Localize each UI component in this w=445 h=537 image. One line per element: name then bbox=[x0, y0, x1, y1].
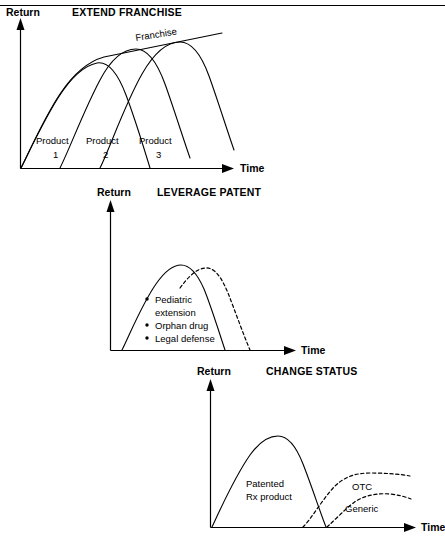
bullet-item-1-line1: Pediatric bbox=[155, 294, 192, 305]
product-2-number: 2 bbox=[103, 149, 108, 160]
otc-label: OTC bbox=[352, 481, 372, 492]
product-1-label: Product bbox=[36, 135, 69, 146]
panel1-x-axis-label: Time bbox=[240, 162, 264, 174]
panel1-y-axis-label: Return bbox=[6, 6, 40, 18]
bullet-dot-icon bbox=[145, 336, 148, 339]
panel-extend-franchise: Return EXTEND FRANCHISE Time Franchise P… bbox=[6, 6, 264, 174]
panel-change-status: Return CHANGE STATUS Time Patented Rx pr… bbox=[197, 365, 445, 533]
panel3-y-axis-label: Return bbox=[197, 365, 231, 377]
y-axis-arrowhead bbox=[107, 200, 115, 212]
y-axis-arrowhead bbox=[17, 18, 25, 30]
panel2-x-axis-label: Time bbox=[301, 344, 325, 356]
panel1-title: EXTEND FRANCHISE bbox=[72, 6, 182, 18]
panel2-title: LEVERAGE PATENT bbox=[157, 186, 262, 198]
product-1-number: 1 bbox=[53, 149, 58, 160]
product-3-label: Product bbox=[139, 135, 172, 146]
panel3-x-axis-label: Time bbox=[421, 521, 445, 533]
product-1-curve bbox=[21, 63, 150, 168]
x-axis-arrowhead bbox=[284, 346, 296, 355]
franchise-series-label: Franchise bbox=[135, 26, 178, 43]
product-2-label: Product bbox=[86, 135, 119, 146]
diagram-canvas: Return EXTEND FRANCHISE Time Franchise P… bbox=[0, 0, 445, 537]
bullet-item-1-line2: extension bbox=[155, 307, 196, 318]
x-axis-arrowhead bbox=[404, 523, 416, 532]
product-3-number: 3 bbox=[156, 149, 161, 160]
panel3-title: CHANGE STATUS bbox=[266, 365, 357, 377]
panel-leverage-patent: Return LEVERAGE PATENT Time Pediatric ex… bbox=[97, 186, 325, 356]
product-3-curve bbox=[100, 42, 234, 168]
bullet-dot-icon bbox=[145, 323, 148, 326]
y-axis-arrowhead bbox=[207, 379, 215, 391]
x-axis-arrowhead bbox=[222, 164, 234, 173]
bullet-item-2: Orphan drug bbox=[155, 320, 208, 331]
generic-label: Generic bbox=[345, 503, 379, 514]
bullet-dot-icon bbox=[145, 297, 148, 300]
patented-rx-label-line2: Rx product bbox=[246, 491, 292, 502]
bullet-item-3: Legal defense bbox=[155, 333, 215, 344]
patented-rx-label-line1: Patented bbox=[246, 478, 284, 489]
panel2-y-axis-label: Return bbox=[97, 186, 131, 198]
diagram-page: Return EXTEND FRANCHISE Time Franchise P… bbox=[0, 0, 445, 537]
